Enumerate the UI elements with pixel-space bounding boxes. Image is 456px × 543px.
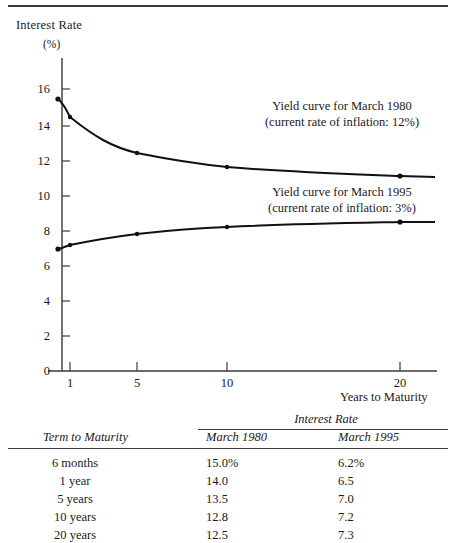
cell-term: 5 years <box>0 489 196 507</box>
y-tick-label-10: 10 <box>28 189 50 204</box>
x-tick-label-5: 5 <box>122 376 152 391</box>
y-tick-label-16: 16 <box>28 82 50 97</box>
span-header-spacer <box>0 412 196 427</box>
column-header-term: Term to Maturity <box>0 430 196 445</box>
table-row: 1 year 14.0 6.5 <box>0 471 456 489</box>
cell-rate-1995: 7.3 <box>328 525 456 543</box>
y-tick-label-4: 4 <box>28 294 50 309</box>
annotation-1980-line2: (current rate of inflation: 12%) <box>232 114 452 130</box>
y-tick-label-8: 8 <box>28 224 50 239</box>
annotation-1995-line1: Yield curve for March 1995 <box>232 184 452 200</box>
x-tick-label-10: 10 <box>212 376 242 391</box>
table: Interest Rate Term to Maturity March 198… <box>0 412 456 543</box>
curve-1995-markers <box>55 219 402 251</box>
cell-rate-1980: 12.8 <box>196 507 328 525</box>
x-tick-label-1: 1 <box>55 376 85 391</box>
table-row: 6 months 15.0% 6.2% <box>0 449 456 471</box>
cell-rate-1995: 7.2 <box>328 507 456 525</box>
annotation-curve-1980: Yield curve for March 1980 (current rate… <box>232 98 452 130</box>
cell-rate-1980: 13.5 <box>196 489 328 507</box>
annotation-1980-line1: Yield curve for March 1980 <box>232 98 452 114</box>
y-tick-label-14: 14 <box>28 119 50 134</box>
cell-rate-1995: 7.0 <box>328 489 456 507</box>
cell-term: 1 year <box>0 471 196 489</box>
annotation-1995-line2: (current rate of inflation: 3%) <box>232 200 452 216</box>
cell-rate-1995: 6.5 <box>328 471 456 489</box>
table-span-header: Interest Rate <box>196 412 456 427</box>
table-span-header-row: Interest Rate <box>0 412 456 427</box>
column-header-march-1980: March 1980 <box>196 430 328 445</box>
table-row: 5 years 13.5 7.0 <box>0 489 456 507</box>
cell-rate-1980: 15.0% <box>196 449 328 471</box>
x-tick-label-20: 20 <box>385 376 415 391</box>
y-tick-label-6: 6 <box>28 259 50 274</box>
cell-term: 6 months <box>0 449 196 471</box>
y-tick-label-2: 2 <box>28 329 50 344</box>
y-tick-marks <box>62 89 70 336</box>
cell-rate-1980: 14.0 <box>196 471 328 489</box>
cell-rate-1995: 6.2% <box>328 449 456 471</box>
x-tick-marks <box>70 362 400 371</box>
table-row: 10 years 12.8 7.2 <box>0 507 456 525</box>
column-header-march-1995: March 1995 <box>328 430 456 445</box>
annotation-curve-1995: Yield curve for March 1995 (current rate… <box>232 184 452 216</box>
table-row: 20 years 12.5 7.3 <box>0 525 456 543</box>
y-tick-label-0: 0 <box>28 364 50 379</box>
interest-rate-table: Interest Rate Term to Maturity March 198… <box>0 412 456 543</box>
cell-term: 20 years <box>0 525 196 543</box>
y-tick-label-12: 12 <box>28 154 50 169</box>
yield-curve-plot: 16 14 12 10 8 6 4 2 0 1 5 10 20 Yield cu… <box>0 0 456 420</box>
cell-rate-1980: 12.5 <box>196 525 328 543</box>
table-header-row: Term to Maturity March 1980 March 1995 <box>0 430 456 445</box>
cell-term: 10 years <box>0 507 196 525</box>
curve-1995 <box>58 222 435 249</box>
